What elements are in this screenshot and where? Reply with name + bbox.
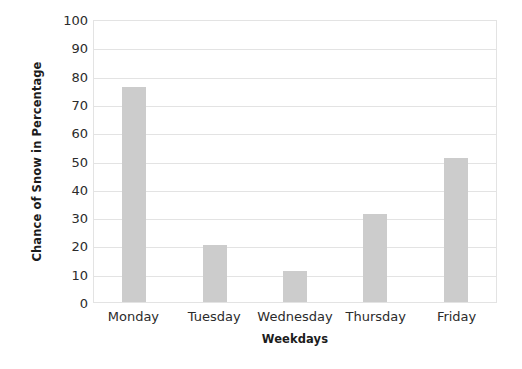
x-tick-label: Thursday bbox=[335, 306, 416, 328]
bar-slot bbox=[335, 21, 415, 302]
x-tick-label: Monday bbox=[93, 306, 174, 328]
y-tick-label: 80 bbox=[52, 70, 88, 83]
bar-slot bbox=[94, 21, 174, 302]
bar-slot bbox=[416, 21, 496, 302]
y-tick-label: 50 bbox=[52, 155, 88, 168]
bar-thursday[interactable] bbox=[363, 214, 387, 302]
y-tick-label: 100 bbox=[52, 14, 88, 27]
bar-chart: Chance of Snow in Percentage 01020304050… bbox=[0, 0, 522, 369]
y-tick-label: 70 bbox=[52, 98, 88, 111]
y-tick-label: 0 bbox=[52, 297, 88, 310]
bar-tuesday[interactable] bbox=[203, 245, 227, 302]
bar-wednesday[interactable] bbox=[283, 271, 307, 302]
bar-slot bbox=[255, 21, 335, 302]
x-tick-label: Friday bbox=[416, 306, 497, 328]
y-tick-label: 20 bbox=[52, 240, 88, 253]
bar-monday[interactable] bbox=[122, 87, 146, 302]
x-axis-tick-labels: MondayTuesdayWednesdayThursdayFriday bbox=[93, 306, 497, 328]
y-tick-label: 40 bbox=[52, 183, 88, 196]
y-axis-title: Chance of Snow in Percentage bbox=[26, 20, 48, 303]
y-tick-label: 60 bbox=[52, 127, 88, 140]
x-tick-label: Tuesday bbox=[174, 306, 255, 328]
bar-friday[interactable] bbox=[444, 158, 468, 302]
y-tick-label: 30 bbox=[52, 212, 88, 225]
y-axis-tick-labels: 0102030405060708090100 bbox=[52, 20, 88, 303]
y-tick-label: 90 bbox=[52, 42, 88, 55]
bar-slot bbox=[174, 21, 254, 302]
x-tick-label: Wednesday bbox=[255, 306, 336, 328]
x-axis-title: Weekdays bbox=[93, 332, 497, 346]
plot-area bbox=[93, 20, 497, 303]
y-tick-label: 10 bbox=[52, 268, 88, 281]
bars-layer bbox=[94, 21, 496, 302]
